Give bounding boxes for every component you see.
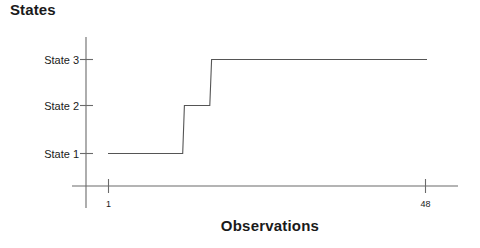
plot-area <box>0 0 480 248</box>
states-step-chart: States State 3 State 2 State 1 1 48 Obse… <box>0 0 480 248</box>
ytick-label-state-3: State 3 <box>44 54 79 66</box>
x-axis-title-wrap: Observations <box>0 217 480 234</box>
xtick-label-48: 48 <box>420 199 430 209</box>
xtick-label-1: 1 <box>106 199 111 209</box>
x-axis-title: Observations <box>221 217 319 234</box>
ytick-label-state-1: State 1 <box>44 148 79 160</box>
state-step-line <box>108 60 427 154</box>
ytick-label-state-2: State 2 <box>44 100 79 112</box>
